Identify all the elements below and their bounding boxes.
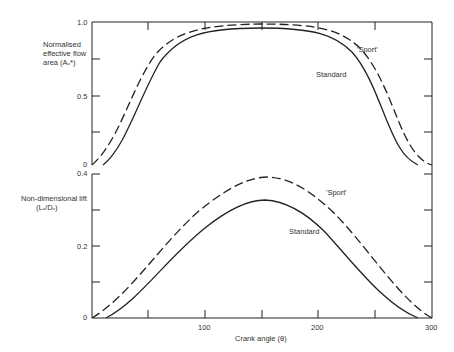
bottom-standard-label: Standard (289, 227, 319, 236)
x-axis-title: Crank angle (θ) (235, 334, 287, 343)
top-ytick-1-0: 1.0 (77, 18, 87, 27)
top-ylabel: Normalised effective flow area (Aᵥ*) (43, 40, 86, 67)
top-sport-label: 'Sport' (357, 45, 378, 54)
xtick-100: 100 (198, 323, 211, 332)
bottom-ytick-0-2: 0.2 (77, 242, 87, 251)
bottom-ylabel-line1: Non-dimensional lift (21, 194, 87, 203)
bottom-sport-label: 'Sport' (326, 188, 347, 197)
top-ylabel-line3: area (Aᵥ*) (43, 58, 86, 67)
xtick-300: 300 (425, 323, 438, 332)
top-ytick-0: 0 (83, 160, 87, 169)
top-standard-label: Standard (316, 70, 346, 79)
bottom-ylabel-line2: (Lᵥ/Dᵥ) (21, 203, 87, 212)
bottom-sport-curve (92, 177, 432, 318)
top-ylabel-line2: effective flow (43, 49, 86, 58)
top-ytick-0-5: 0.5 (77, 92, 87, 101)
bottom-ytick-0-4: 0.4 (77, 169, 87, 178)
bottom-ytick-0: 0 (83, 313, 87, 322)
bottom-ylabel: Non-dimensional lift (Lᵥ/Dᵥ) (21, 194, 87, 212)
xtick-200: 200 (311, 323, 324, 332)
top-ylabel-line1: Normalised (43, 40, 86, 49)
